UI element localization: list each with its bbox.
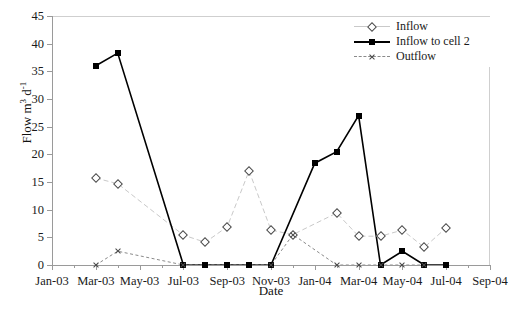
cross-marker-icon [333,262,340,269]
legend-key-outflow [352,50,392,64]
cross-marker-icon [92,262,99,269]
y-tick-label: 15 [16,175,44,190]
legend-label-outflow: Outflow [396,49,436,64]
x-tick [118,265,119,268]
legend-item-inflow-cell2[interactable]: Inflow to cell 2 [352,34,490,49]
cross-marker-icon [289,231,296,238]
y-tick-label: 25 [16,120,44,135]
square-marker-icon [369,39,375,45]
legend-key-inflow [352,20,392,34]
square-marker-icon [202,262,208,268]
x-tick [52,265,53,270]
flow-time-series-chart: Flow m3 d-1 051015202530354045 Jan-03Mar… [0,0,510,324]
square-marker-icon [312,160,318,166]
y-tick-label: 30 [16,92,44,107]
legend-item-outflow[interactable]: Outflow [352,49,490,64]
diamond-marker-icon [367,22,377,32]
y-tick-label: 0 [16,258,44,273]
y-axis-title: Flow m3 d-1 [18,38,35,188]
chart-legend: Inflow Inflow to cell 2 Outflow [352,17,490,67]
legend-item-inflow[interactable]: Inflow [352,19,490,34]
x-tick [74,265,75,268]
square-marker-icon [334,149,340,155]
x-tick [468,265,469,268]
x-tick [293,265,294,268]
cross-marker-icon [180,262,187,269]
y-tick-label: 45 [16,9,44,24]
cross-marker-icon [355,262,362,269]
cross-marker-icon [268,262,275,269]
x-tick [162,265,163,268]
x-tick [140,265,141,270]
cross-marker-icon [421,262,428,269]
cross-marker-icon [377,262,384,269]
square-marker-icon [224,262,230,268]
cross-marker-icon [369,53,376,60]
x-axis-title: Date [52,283,490,299]
square-marker-icon [246,262,252,268]
series-line [96,235,425,265]
x-tick [315,265,316,270]
cross-marker-icon [399,262,406,269]
square-marker-icon [399,248,405,254]
square-marker-icon [356,113,362,119]
legend-label-inflow-cell2: Inflow to cell 2 [396,34,470,49]
series-line [96,171,446,247]
cross-marker-icon [114,248,121,255]
x-tick [490,265,491,270]
y-tick-label: 40 [16,37,44,52]
square-marker-icon [93,63,99,69]
y-tick-label: 20 [16,147,44,162]
square-marker-icon [115,50,121,56]
legend-key-inflow-cell2 [352,35,392,49]
y-tick-label: 10 [16,203,44,218]
square-marker-icon [443,262,449,268]
y-tick-label: 5 [16,230,44,245]
legend-label-inflow: Inflow [396,19,428,34]
y-tick-label: 35 [16,64,44,79]
